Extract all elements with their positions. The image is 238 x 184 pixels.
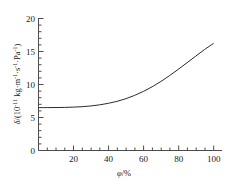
x-major-ticks — [74, 146, 214, 151]
y-tick-label: 15 — [26, 47, 36, 57]
y-tick-label: 5 — [31, 113, 36, 123]
x-axis-label: φ/% — [117, 168, 131, 178]
y-tick-label: 10 — [26, 80, 36, 90]
x-axis-label-rest: /% — [122, 168, 131, 178]
data-curve-line — [39, 44, 214, 108]
y-axis-label-unit-pa: ·Pa — [12, 51, 22, 63]
y-axis-label: δ/(10-11 kg·m-1·s-1·Pa-1) — [12, 43, 22, 124]
chart-svg: 0 5 10 15 20 20 40 60 80 100 φ/% δ/(10-1… — [0, 0, 238, 184]
chart-figure: 0 5 10 15 20 20 40 60 80 100 φ/% δ/(10-1… — [0, 0, 238, 184]
y-tick-label: 20 — [26, 14, 36, 24]
x-tick-label: 40 — [104, 154, 114, 164]
y-axis-label-exp1: -11 — [12, 99, 18, 107]
x-tick-labels: 20 40 60 80 100 — [69, 154, 221, 164]
y-axis-label-open: /(10 — [12, 107, 22, 121]
y-axis-label-unit-kg: kg·m — [12, 79, 22, 99]
x-tick-label: 80 — [174, 154, 184, 164]
x-tick-label: 100 — [207, 154, 221, 164]
x-tick-label: 20 — [69, 154, 79, 164]
x-tick-label: 60 — [139, 154, 149, 164]
y-tick-labels: 0 5 10 15 20 — [26, 14, 36, 156]
y-tick-label: 0 — [31, 146, 36, 156]
y-axis-label-close: ) — [12, 43, 22, 46]
